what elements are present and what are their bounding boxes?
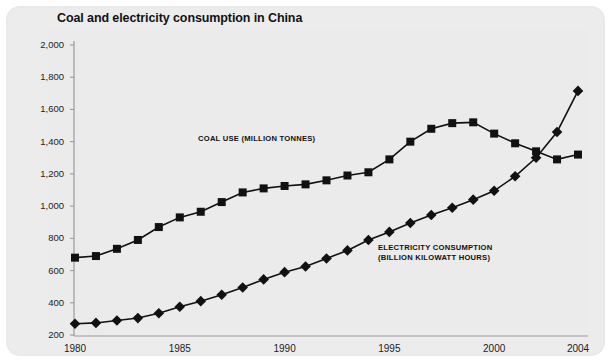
x-axis-tick-label: 2004 [555,343,601,354]
coal-series-marker [406,138,414,146]
electricity-series-marker [405,218,416,229]
coal-series-marker [113,245,121,253]
series-group [70,86,584,329]
coal-series-marker [155,223,163,231]
chart-figure: Coal and electricity consumption in Chin… [0,0,611,362]
electricity-series-annotation: ELECTRICITY CONSUMPTION(BILLION KILOWATT… [378,243,492,263]
coal-series-marker [134,236,142,244]
electricity-series-marker [279,267,290,278]
x-axis-tick-label: 1995 [366,343,412,354]
electricity-series-marker [133,313,144,324]
coal-series-marker [469,118,477,126]
electricity-series-marker [384,227,395,238]
coal-series-marker [427,125,435,133]
electricity-series-line [75,91,578,324]
y-axis-tick-label: 400 [30,297,64,308]
coal-series-marker [281,182,289,190]
coal-series-marker [343,172,351,180]
coal-series-marker [302,180,310,188]
electricity-series-marker [237,282,248,293]
y-axis-tick-label: 200 [30,329,64,340]
coal-series-marker [218,198,226,206]
coal-series-marker [323,176,331,184]
electricity-series-marker [300,261,311,272]
electricity-series-marker [91,318,102,329]
chart-canvas [0,0,611,362]
electricity-series-marker [216,289,227,300]
electricity-annotation-line-2: (BILLION KILOWATT HOURS) [378,253,492,263]
electricity-series-marker [70,318,81,329]
electricity-series-marker [426,210,437,221]
coal-series-marker [197,208,205,216]
electricity-series-marker [321,253,332,264]
coal-series-marker [176,213,184,221]
coal-series-annotation: COAL USE (MILLION TONNES) [198,134,315,144]
y-axis-tick-label: 600 [30,265,64,276]
coal-series-marker [239,188,247,196]
coal-series-line [75,122,578,257]
electricity-series-marker [154,308,165,319]
electricity-series-marker [195,296,206,307]
electricity-series-marker [573,86,584,97]
y-axis-tick-label: 1,400 [30,136,64,147]
x-axis-tick-label: 1980 [52,343,98,354]
coal-series-marker [553,155,561,163]
y-axis-tick-label: 2,000 [30,39,64,50]
electricity-annotation-line-1: ELECTRICITY CONSUMPTION [378,243,492,253]
x-axis-tick-label: 2000 [471,343,517,354]
y-axis-tick-label: 1,200 [30,168,64,179]
y-axis-tick-label: 1,000 [30,200,64,211]
coal-series-marker [490,130,498,138]
y-axis-tick-label: 800 [30,232,64,243]
electricity-series-marker [363,235,374,246]
coal-series-marker [71,254,79,262]
y-axis-tick-label: 1,600 [30,103,64,114]
coal-series-marker [385,155,393,163]
coal-series-marker [511,139,519,147]
electricity-series-marker [342,245,353,256]
electricity-series-marker [258,274,269,285]
coal-series-marker [260,184,268,192]
electricity-series-marker [489,186,500,197]
electricity-series-marker [174,302,185,313]
coal-series-marker [574,151,582,159]
electricity-series-marker [112,315,123,326]
coal-series-marker [448,119,456,127]
axes-group [70,41,588,336]
x-axis-tick-label: 1985 [157,343,203,354]
electricity-series-marker [447,202,458,213]
coal-series-marker [364,168,372,176]
coal-series-marker [92,252,100,260]
y-axis-tick-label: 1,800 [30,71,64,82]
electricity-series-marker [468,194,479,205]
x-axis-tick-label: 1990 [262,343,308,354]
